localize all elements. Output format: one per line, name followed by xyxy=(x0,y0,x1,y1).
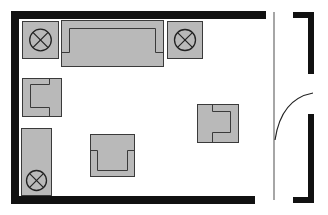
floor-plan-canvas xyxy=(0,0,328,215)
top-wall xyxy=(11,11,266,19)
cabinet-lamp-bottom-left-body xyxy=(22,129,52,196)
right-top-wall xyxy=(308,12,314,74)
door-swing-arc-icon xyxy=(275,93,313,140)
sofa-body xyxy=(62,21,164,67)
armchair-right[interactable] xyxy=(198,105,239,143)
floor-plan-svg xyxy=(0,0,328,215)
furniture-group xyxy=(22,21,239,196)
right-bottom-wall xyxy=(308,114,314,203)
left-wall xyxy=(11,11,19,204)
cabinet-lamp-bottom-left[interactable] xyxy=(22,129,52,196)
sofa[interactable] xyxy=(62,21,164,67)
door-group xyxy=(274,12,313,200)
armchair-left[interactable] xyxy=(23,79,62,117)
armchair-right-body xyxy=(198,105,239,143)
armchair-bottom[interactable] xyxy=(91,135,135,177)
end-table-top-right[interactable] xyxy=(168,22,203,59)
bottom-wall xyxy=(11,196,255,204)
end-table-top-left[interactable] xyxy=(23,22,59,59)
right-bottom-wall-cap xyxy=(293,197,314,203)
